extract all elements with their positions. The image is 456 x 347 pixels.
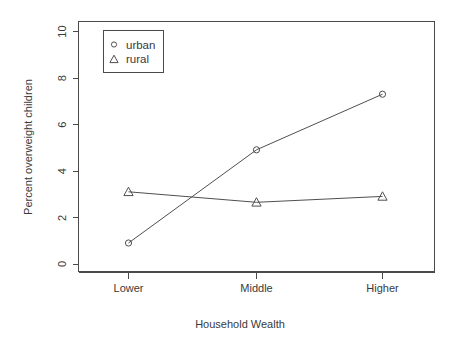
chart-figure: 0 2 4 6 8 10 Lower Middle Higher Percent… [0, 0, 456, 347]
x-tick-label-lower: Lower [114, 282, 144, 294]
legend-label-urban: urban [126, 39, 155, 51]
y-tick-label-10: 10 [56, 25, 68, 37]
data-point-rural-lower [124, 187, 133, 195]
line-chart: 0 2 4 6 8 10 Lower Middle Higher Percent… [0, 0, 456, 347]
legend: urban rural [104, 31, 164, 73]
y-tick-label-8: 8 [56, 75, 68, 81]
series-line-urban [129, 94, 383, 243]
data-point-rural-higher [378, 192, 387, 200]
y-tick-label-6: 6 [56, 122, 68, 128]
x-tick-label-middle: Middle [240, 282, 272, 294]
series-line-rural [129, 192, 383, 203]
legend-border [104, 31, 164, 73]
y-tick-label-4: 4 [56, 168, 68, 174]
x-axis-title: Household Wealth [195, 318, 285, 330]
x-tick-label-higher: Higher [366, 282, 399, 294]
y-tick-label-2: 2 [56, 215, 68, 221]
legend-label-rural: rural [126, 53, 149, 65]
y-axis-title: Percent overweight children [22, 79, 34, 215]
y-tick-label-0: 0 [56, 261, 68, 267]
